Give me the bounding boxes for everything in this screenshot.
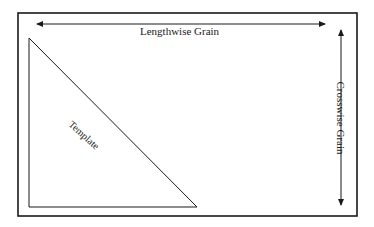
lengthwise-grain-label: Lengthwise Grain (140, 26, 219, 37)
template-triangle (29, 38, 197, 207)
fabric-frame (18, 13, 357, 216)
crosswise-grain-label: Crosswise Grain (335, 81, 346, 154)
